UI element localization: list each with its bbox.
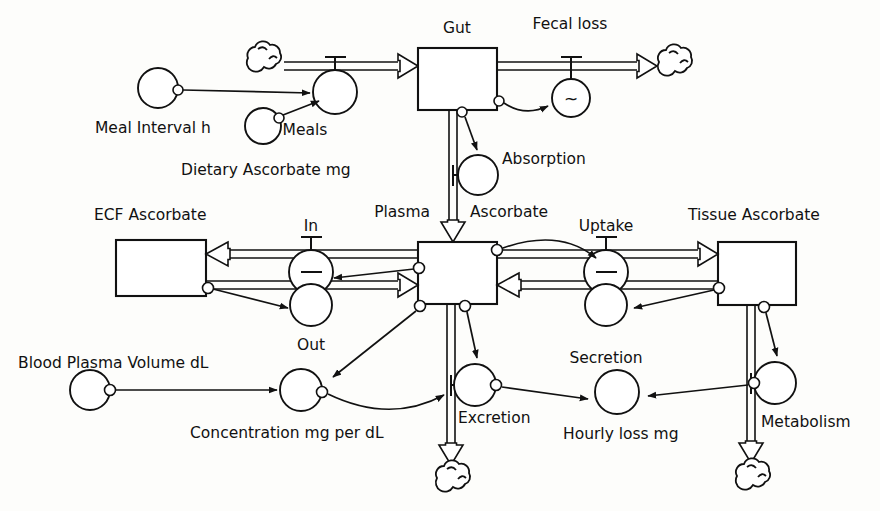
- sink-cloud-metabolism: [736, 458, 770, 489]
- flow-valve-secretion[interactable]: [585, 284, 627, 326]
- stock-ecf-ascorbate[interactable]: [116, 240, 206, 296]
- connector-gut-to-absorption: [457, 107, 477, 150]
- aux-label-hourly-loss: Hourly loss mg: [563, 425, 679, 443]
- connector-ecf-to-out: [203, 283, 289, 309]
- connector-tissue-to-metabolism: [759, 302, 778, 357]
- aux-label-meal-interval: Meal Interval h: [95, 119, 211, 137]
- flow-label-out: Out: [297, 336, 325, 354]
- flow-valve-out[interactable]: [290, 284, 332, 326]
- flow-valve-fecal-loss[interactable]: ~: [552, 57, 590, 117]
- diagram-canvas: Meals Meal Interval h Dietary Ascorbate …: [0, 0, 880, 511]
- connector-plasma-to-excretion: [460, 301, 478, 359]
- aux-label-concentration: Concentration mg per dL: [190, 424, 384, 442]
- connector-metabolism-to-hourlyloss: [648, 378, 760, 397]
- sink-cloud-fecal: [658, 44, 692, 75]
- flow-pipe-meals: [284, 54, 418, 78]
- flow-label-excretion: Excretion: [458, 409, 530, 427]
- flow-valve-absorption[interactable]: [453, 155, 498, 195]
- flow-label-absorption: Absorption: [502, 150, 586, 168]
- flow-label-secretion: Secretion: [569, 349, 642, 367]
- connector-tissue-to-secretion: [634, 283, 725, 309]
- stock-label-plasma-part2: Ascorbate: [470, 203, 548, 221]
- stock-flow-diagram: Meals Meal Interval h Dietary Ascorbate …: [0, 0, 880, 511]
- flow-label-uptake: Uptake: [579, 217, 634, 235]
- aux-label-blood-plasma-volume: Blood Plasma Volume dL: [18, 354, 209, 372]
- sink-cloud-excretion: [436, 460, 470, 491]
- aux-concentration[interactable]: [280, 369, 322, 411]
- connector-concentration-to-excretion: [317, 387, 445, 410]
- flow-valve-meals[interactable]: [313, 57, 357, 114]
- aux-label-dietary-ascorbate: Dietary Ascorbate mg: [181, 161, 351, 179]
- connector-plasma-to-concentration: [333, 301, 426, 378]
- stock-plasma-ascorbate[interactable]: [418, 242, 497, 304]
- stock-label-tissue-ascorbate: Tissue Ascorbate: [687, 206, 820, 224]
- connector-excretion-to-hourlyloss: [491, 380, 589, 400]
- source-cloud-diet: [247, 41, 281, 71]
- aux-hourly-loss[interactable]: [595, 370, 639, 414]
- flow-valve-excretion[interactable]: [451, 364, 496, 406]
- aux-meal-interval[interactable]: [138, 68, 178, 108]
- flow-label-metabolism: Metabolism: [761, 413, 851, 431]
- connector-mealinterval-to-meals: [173, 85, 310, 95]
- connector-plasma-to-uptake: [492, 240, 597, 258]
- flow-label-in: In: [304, 217, 318, 235]
- connector-gut-to-fecalloss: [494, 96, 548, 111]
- stock-label-plasma-part1: Plasma: [374, 203, 430, 221]
- stock-tissue-ascorbate[interactable]: [718, 242, 796, 305]
- stock-label-ecf-ascorbate: ECF Ascorbate: [94, 206, 206, 224]
- stock-label-gut: Gut: [443, 19, 471, 37]
- stock-gut[interactable]: [418, 48, 497, 110]
- fecal-rate-symbol: ~: [564, 89, 578, 109]
- connector-volume-to-concentration: [105, 385, 278, 396]
- flow-label-fecal-loss: Fecal loss: [533, 15, 608, 33]
- flow-label-meals: Meals: [283, 121, 328, 139]
- connector-plasma-to-in: [334, 263, 425, 279]
